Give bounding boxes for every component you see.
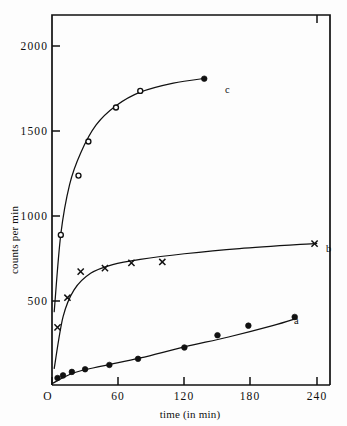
- curve-labels: c b a: [225, 84, 331, 326]
- y-axis-title: counts per min: [8, 206, 20, 274]
- data-point-c: [76, 173, 81, 178]
- curve-c: [54, 78, 206, 312]
- data-point-b: [54, 324, 60, 330]
- x-tick-label-0: O: [43, 390, 52, 402]
- curve-label-b: b: [326, 243, 331, 254]
- curve-label-c: c: [225, 84, 230, 95]
- x-axis-title: time (in min): [160, 408, 221, 421]
- data-point-c: [86, 139, 91, 144]
- data-point-b: [159, 259, 165, 265]
- x-tick-label-60: 60: [111, 390, 125, 402]
- chart-figure: 2000 1500 1000 500 counts per min O 60 1…: [0, 0, 347, 426]
- data-point-a: [182, 345, 188, 351]
- data-point-a: [215, 332, 221, 338]
- x-tick-label-180: 180: [240, 390, 261, 402]
- x-axis-tick-labels: O 60 120 180 240: [43, 390, 327, 402]
- y-tick-label-1000: 1000: [21, 210, 48, 222]
- axis-frame-path: [52, 15, 330, 385]
- data-point-a: [135, 356, 141, 362]
- y-tick-label-500: 500: [27, 295, 48, 307]
- y-tick-label-2000: 2000: [21, 40, 48, 52]
- curve-a: [52, 318, 297, 383]
- data-point-b: [78, 268, 84, 274]
- data-point-a: [55, 375, 61, 381]
- curve-label-a: a: [294, 315, 299, 326]
- chart-canvas: 2000 1500 1000 500 counts per min O 60 1…: [0, 0, 347, 426]
- plot-frame: [52, 15, 330, 385]
- x-tick-label-240: 240: [307, 390, 328, 402]
- data-point-c: [138, 88, 143, 93]
- data-point-a: [69, 369, 75, 375]
- data-point-c: [113, 105, 118, 110]
- data-point-c: [58, 232, 63, 237]
- x-tick-label-120: 120: [174, 390, 195, 402]
- y-axis-tick-labels: 2000 1500 1000 500: [21, 40, 48, 307]
- data-point-a: [82, 366, 88, 372]
- markers-layer: [54, 76, 317, 381]
- curves-layer: [52, 78, 317, 383]
- y-axis-ticks: [52, 46, 60, 301]
- data-point-a: [107, 362, 113, 368]
- data-point-a: [60, 373, 66, 379]
- data-point-c: [201, 76, 207, 82]
- data-point-a: [246, 323, 252, 329]
- x-axis-ticks: [52, 15, 317, 385]
- y-tick-label-1500: 1500: [21, 125, 48, 137]
